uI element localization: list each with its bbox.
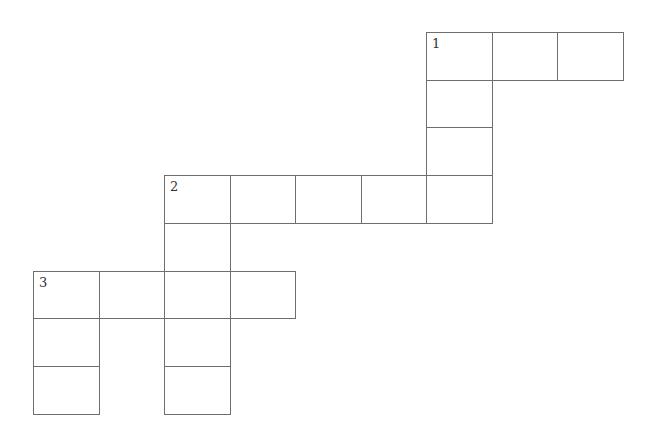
crossword-grid: 123 [0, 0, 655, 436]
crossword-cell[interactable] [164, 271, 231, 319]
crossword-cell[interactable] [426, 80, 493, 128]
crossword-cell[interactable] [426, 175, 493, 224]
crossword-cell[interactable] [361, 175, 427, 224]
clue-number: 3 [39, 276, 47, 289]
crossword-cell[interactable] [426, 127, 493, 176]
crossword-cell[interactable] [164, 223, 231, 272]
crossword-cell[interactable] [230, 175, 296, 224]
crossword-cell[interactable]: 1 [426, 32, 493, 81]
crossword-cell[interactable] [164, 366, 231, 415]
crossword-cell[interactable] [33, 366, 100, 415]
crossword-cell[interactable] [295, 175, 362, 224]
crossword-cell[interactable]: 3 [33, 271, 100, 319]
clue-number: 1 [432, 37, 440, 50]
crossword-cell[interactable]: 2 [164, 175, 231, 224]
crossword-cell[interactable] [164, 318, 231, 367]
clue-number: 2 [170, 180, 178, 193]
crossword-cell[interactable] [557, 32, 624, 81]
crossword-cell[interactable] [99, 271, 165, 319]
crossword-cell[interactable] [33, 318, 100, 367]
crossword-cell[interactable] [230, 271, 296, 319]
crossword-cell[interactable] [492, 32, 558, 81]
